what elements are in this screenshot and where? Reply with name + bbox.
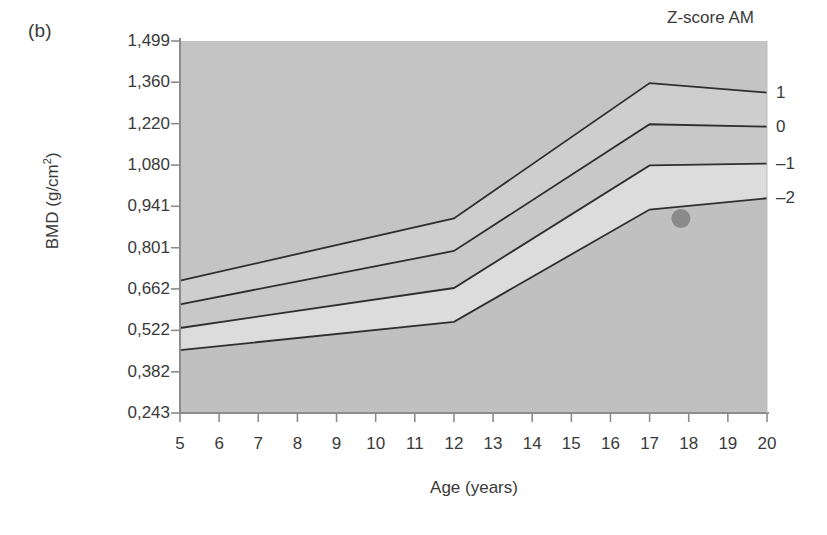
data-point-patient-measurement[interactable] — [671, 209, 690, 228]
figure-panel: (b) Z-score AM BMD (g/cm2) Age (years) 0… — [0, 0, 827, 535]
chart-plot-area — [0, 0, 827, 535]
